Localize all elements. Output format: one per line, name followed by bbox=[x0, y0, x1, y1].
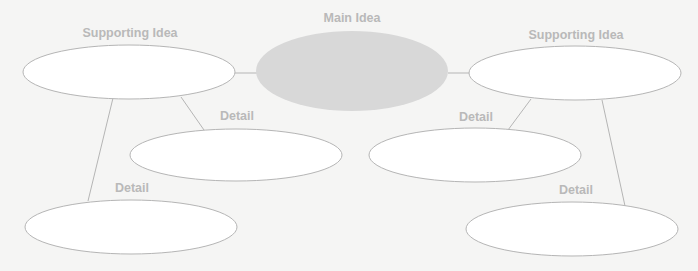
left-supporting-idea-node[interactable] bbox=[23, 45, 235, 99]
main-idea-node[interactable] bbox=[256, 31, 448, 111]
left-detail-1-node[interactable] bbox=[130, 129, 342, 181]
left-detail-2-node[interactable] bbox=[25, 200, 237, 254]
connector-left-support-detail-1 bbox=[181, 97, 204, 130]
connector-left-support-detail-2 bbox=[88, 98, 113, 201]
right-detail-2-node[interactable] bbox=[466, 202, 678, 256]
left-detail-1-label: Detail bbox=[220, 109, 254, 123]
main-idea-label: Main Idea bbox=[324, 11, 381, 25]
right-detail-2-label: Detail bbox=[559, 183, 593, 197]
connector-right-support-detail-2 bbox=[602, 100, 625, 206]
right-supporting-idea-node[interactable] bbox=[469, 46, 681, 100]
right-supporting-idea-label: Supporting Idea bbox=[528, 28, 623, 42]
left-detail-2-label: Detail bbox=[115, 181, 149, 195]
right-detail-1-label: Detail bbox=[459, 110, 493, 124]
right-detail-1-node[interactable] bbox=[369, 128, 581, 182]
left-supporting-idea-label: Supporting Idea bbox=[82, 26, 177, 40]
connector-right-support-detail-1 bbox=[508, 99, 531, 130]
